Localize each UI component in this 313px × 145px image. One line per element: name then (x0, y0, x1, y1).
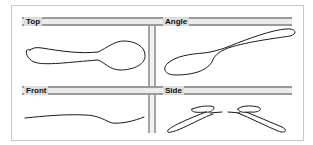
spoon-side-view (0, 0, 313, 145)
